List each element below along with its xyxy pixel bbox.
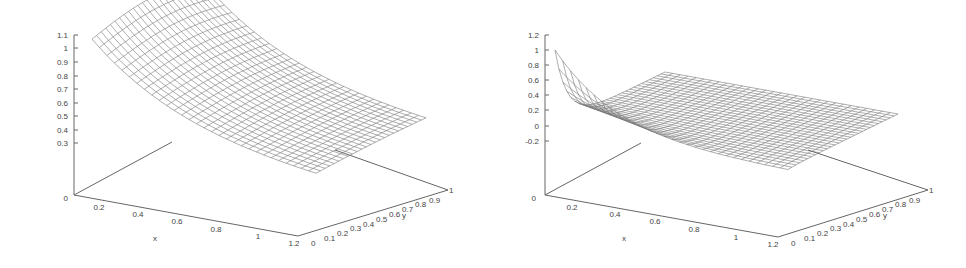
z-axis-labels: 1.2 1 0.8 0.6 0.4 0.2 0 -0.2 0 (525, 31, 539, 203)
wireframe-surface-right (555, 50, 898, 170)
svg-text:0.4: 0.4 (132, 210, 144, 219)
surface-plot-right: 1.2 1 0.8 0.6 0.4 0.2 0 -0.2 0 0.2 0.4 0… (483, 0, 966, 268)
svg-text:0.8: 0.8 (57, 72, 69, 81)
svg-text:0: 0 (791, 239, 796, 248)
svg-text:1: 1 (64, 44, 69, 53)
svg-text:0.2: 0.2 (528, 106, 540, 115)
svg-text:1: 1 (256, 232, 261, 241)
svg-text:0.9: 0.9 (57, 58, 69, 67)
plot-canvas-right: 1.2 1 0.8 0.6 0.4 0.2 0 -0.2 0 0.2 0.4 0… (483, 0, 966, 268)
svg-text:0.8: 0.8 (210, 225, 222, 234)
svg-text:0.6: 0.6 (57, 99, 69, 108)
axes-frame (74, 35, 448, 236)
svg-text:0.8: 0.8 (895, 200, 907, 209)
svg-text:1: 1 (929, 186, 934, 195)
x-axis-title: x (153, 234, 157, 243)
z-axis-ticks (74, 35, 78, 143)
svg-text:0: 0 (311, 239, 316, 248)
svg-text:0.6: 0.6 (649, 217, 661, 226)
svg-text:0.1: 0.1 (804, 234, 816, 243)
y-axis-title: y (883, 211, 887, 220)
svg-text:1: 1 (449, 186, 454, 195)
svg-text:0.3: 0.3 (830, 224, 842, 233)
wireframe-surface-left (92, 0, 426, 173)
svg-text:0.2: 0.2 (337, 229, 349, 238)
svg-text:0.4: 0.4 (609, 210, 621, 219)
svg-text:0.4: 0.4 (57, 126, 69, 135)
y-axis-labels: 0 0.1 0.2 0.3 0.4 0.5 0.6 0.7 0.8 0.9 1 … (791, 186, 934, 248)
svg-text:0.5: 0.5 (856, 215, 868, 224)
svg-text:0.8: 0.8 (688, 225, 700, 234)
svg-text:0.4: 0.4 (528, 91, 540, 100)
svg-text:0.5: 0.5 (376, 215, 388, 224)
svg-text:-0.2: -0.2 (525, 137, 539, 146)
svg-text:0.5: 0.5 (57, 112, 69, 121)
x-axis-labels: 0.2 0.4 0.6 0.8 1 1.2 x (566, 203, 779, 249)
svg-text:1: 1 (734, 233, 739, 242)
svg-text:0.7: 0.7 (57, 85, 69, 94)
svg-text:0.2: 0.2 (817, 229, 829, 238)
svg-text:1: 1 (535, 46, 540, 55)
svg-text:0: 0 (535, 122, 540, 131)
svg-text:0.3: 0.3 (57, 139, 69, 148)
z-axis-labels: 1.1 1 0.9 0.8 0.7 0.6 0.5 0.4 0.3 0 (57, 31, 69, 203)
svg-text:0.8: 0.8 (415, 200, 427, 209)
svg-text:0.6: 0.6 (528, 76, 540, 85)
x-axis-title: x (622, 234, 626, 243)
svg-text:0.1: 0.1 (324, 234, 336, 243)
svg-text:0.9: 0.9 (909, 196, 921, 205)
svg-text:0.6: 0.6 (389, 210, 401, 219)
y-axis-labels: 0 0.1 0.2 0.3 0.4 0.5 0.6 0.7 0.8 0.9 1 … (311, 186, 454, 248)
y-axis-title: y (402, 211, 406, 220)
svg-text:0.2: 0.2 (93, 203, 105, 212)
plot-canvas-left: 1.1 1 0.9 0.8 0.7 0.6 0.5 0.4 0.3 0 0.2 … (0, 0, 483, 268)
svg-text:0: 0 (532, 194, 537, 203)
svg-text:1.1: 1.1 (57, 31, 69, 40)
svg-text:0: 0 (64, 194, 69, 203)
svg-text:0.9: 0.9 (429, 196, 441, 205)
svg-text:0.4: 0.4 (843, 220, 855, 229)
svg-text:0.2: 0.2 (566, 203, 578, 212)
z-axis-ticks (545, 35, 549, 141)
svg-text:1.2: 1.2 (767, 240, 779, 249)
svg-text:1.2: 1.2 (528, 31, 540, 40)
svg-text:1.2: 1.2 (288, 239, 300, 248)
x-axis-labels: 0.2 0.4 0.6 0.8 1 1.2 x (93, 203, 300, 248)
svg-text:0.6: 0.6 (171, 217, 183, 226)
svg-text:0.8: 0.8 (528, 61, 540, 70)
svg-text:0.6: 0.6 (869, 210, 881, 219)
svg-text:0.4: 0.4 (363, 220, 375, 229)
svg-text:0.3: 0.3 (350, 224, 362, 233)
surface-plot-left: 1.1 1 0.9 0.8 0.7 0.6 0.5 0.4 0.3 0 0.2 … (0, 0, 483, 268)
